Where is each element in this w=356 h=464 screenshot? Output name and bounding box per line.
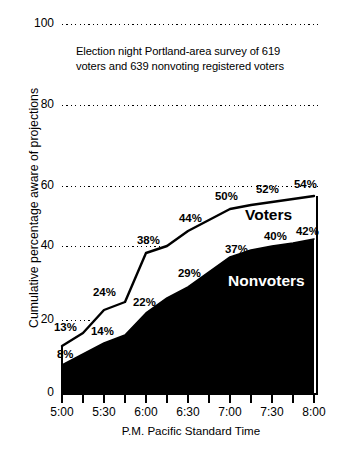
series-label-voters: Voters: [245, 206, 292, 223]
series-label-nonvoters: Nonvoters: [228, 272, 305, 289]
data-label-voters-54: 54%: [294, 178, 317, 191]
y-tick-label-0: 0: [24, 386, 54, 399]
data-label-voters-44: 44%: [179, 212, 202, 225]
y-tick-label-40: 40: [24, 239, 54, 252]
data-label-nonvoters-22: 22%: [133, 296, 156, 309]
x-tick-label-7-00: 7:00: [208, 406, 252, 419]
chart-title: Election night Portland-area survey of 6…: [76, 44, 284, 74]
x-axis-label: P.M. Pacific Standard Time: [63, 424, 319, 437]
data-label-nonvoters-14: 14%: [91, 325, 114, 338]
data-label-nonvoters-37: 37%: [225, 243, 248, 256]
x-tick-label-5-00: 5:00: [40, 406, 84, 419]
data-label-nonvoters-42: 42%: [296, 225, 319, 238]
chart-figure: Election night Portland-area survey of 6…: [0, 0, 356, 464]
x-tick-label-5-30: 5:30: [82, 406, 126, 419]
x-axis-ticks: [62, 394, 314, 403]
data-label-nonvoters-8: 8%: [57, 348, 73, 361]
y-tick-label-80: 80: [24, 98, 54, 111]
y-tick-label-20: 20: [24, 313, 54, 326]
x-tick-label-6-00: 6:00: [124, 406, 168, 419]
data-label-voters-50: 50%: [215, 190, 238, 203]
x-tick-label-8-00: 8:00: [292, 406, 336, 419]
y-tick-label-100: 100: [24, 17, 54, 30]
data-label-voters-13: 13%: [54, 321, 77, 334]
data-label-nonvoters-29: 29%: [178, 267, 201, 280]
y-tick-label-60: 60: [24, 179, 54, 192]
x-tick-label-7-30: 7:30: [250, 406, 294, 419]
data-label-nonvoters-40: 40%: [264, 230, 287, 243]
data-label-voters-24: 24%: [93, 286, 116, 299]
data-label-voters-38: 38%: [137, 234, 160, 247]
y-axis-label: Cumulative percentage aware of projectio…: [28, 92, 42, 328]
data-label-voters-52: 52%: [256, 183, 279, 196]
x-tick-label-6-30: 6:30: [166, 406, 210, 419]
